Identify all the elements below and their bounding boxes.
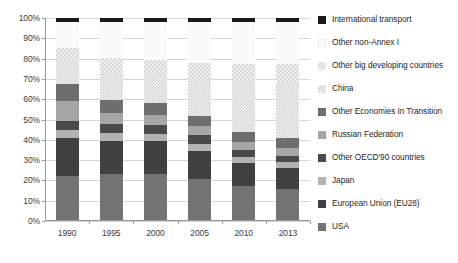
legend-item-eu28[interactable]: European Union (EU28) [318,192,456,215]
legend-swatch-icon [318,177,326,185]
x-axis-tick-label: 2010 [219,229,269,238]
x-axis-tick-mark [133,221,134,224]
gridline [45,180,310,181]
legend-item-label: Other big developing countries [332,61,443,70]
bar-segment [144,60,167,75]
bar-segment [188,79,211,116]
legend-swatch-icon [318,200,326,208]
bar-segment [232,150,255,157]
bar-segment [56,138,79,176]
bar-segment [144,22,167,60]
legend-item-russia[interactable]: Russian Federation [318,123,456,146]
bar-segment [232,132,255,142]
bar-segment [232,163,255,186]
bar-segment [100,58,123,72]
bar-segment [100,100,123,113]
bar-segment [232,142,255,151]
legend-swatch-icon [318,62,326,70]
y-axis-tick-label: 40% [0,136,40,145]
legend-item-label: Other OECD'90 countries [332,153,425,162]
bar-1995 [100,18,123,221]
x-axis-tick-label: 2013 [263,229,313,238]
legend-swatch-icon [318,108,326,116]
bar-segment [276,64,299,82]
bar-segment [56,48,79,61]
bar-segment [276,189,299,221]
bar-segment [276,162,299,168]
legend-swatch-icon [318,16,326,24]
bar-segment [56,84,79,102]
bar-segment [232,18,255,22]
bar-segment [100,113,123,124]
legend-swatch-icon [318,85,326,93]
bar-segment [144,103,167,115]
bar-segment [56,176,79,221]
bar-segment [100,124,123,133]
legend-swatch-icon [318,39,326,47]
legend-item-other-oecd[interactable]: Other OECD'90 countries [318,146,456,169]
bar-segment [232,81,255,132]
y-axis-tick-label: 70% [0,75,40,84]
y-axis-tick-label: 0% [0,217,40,226]
gridline [45,120,310,121]
chart-legend: International transportOther non-Annex I… [318,8,456,238]
bar-segment [232,157,255,163]
y-axis-tick-label: 100% [0,14,40,23]
bar-segment [276,168,299,188]
y-axis-tick-label: 80% [0,54,40,63]
bar-1990 [56,18,79,221]
bar-segment [188,144,211,151]
bar-2010 [232,18,255,221]
legend-item-label: China [332,84,353,93]
x-axis-tick-label: 2000 [130,229,180,238]
x-axis-tick-mark [266,221,267,224]
bar-segment [56,101,79,120]
bar-segment [144,174,167,221]
gridline [45,99,310,100]
bar-segment [188,135,211,144]
y-axis-tick-label: 10% [0,196,40,205]
bar-segment [188,63,211,79]
bar-segment [100,141,123,175]
x-axis-tick-label: 2005 [175,229,225,238]
x-axis-tick-label: 1995 [86,229,136,238]
bar-segment [56,121,79,130]
legend-swatch-icon [318,223,326,231]
bar-segment [188,179,211,221]
bar-segment [100,174,123,221]
gridline [45,79,310,80]
bar-segment [276,138,299,147]
plot-area [45,18,310,221]
legend-item-japan[interactable]: Japan [318,169,456,192]
bar-segment [232,64,255,81]
x-axis-tick-mark [89,221,90,224]
legend-swatch-icon [318,154,326,162]
bar-segment [276,82,299,138]
legend-item-other-nonannex[interactable]: Other non-Annex I [318,31,456,54]
legend-item-label: European Union (EU28) [332,199,420,208]
legend-item-china[interactable]: China [318,77,456,100]
bar-2005 [188,18,211,221]
bar-segment [276,22,299,64]
bar-segment [188,126,211,135]
bar-segment [276,18,299,22]
x-axis-tick-mark [222,221,223,224]
stacked-bar-chart: 0%10%20%30%40%50%60%70%80%90%100% 199019… [0,0,458,263]
bar-segment [144,141,167,174]
legend-item-label: International transport [332,15,412,24]
bar-segment [188,18,211,22]
bar-segment [56,18,79,22]
legend-item-other-eit[interactable]: Other Economies In Transition [318,100,456,123]
gridline [45,160,310,161]
bar-segment [100,22,123,58]
legend-item-usa[interactable]: USA [318,215,456,238]
bar-segment [144,134,167,142]
legend-swatch-icon [318,131,326,139]
legend-item-intl-transport[interactable]: International transport [318,8,456,31]
y-axis-tick-label: 20% [0,176,40,185]
bar-segment [56,130,79,138]
bar-segment [100,18,123,22]
legend-item-other-big-dev[interactable]: Other big developing countries [318,54,456,77]
x-axis-tick-mark [178,221,179,224]
bar-segment [144,125,167,134]
